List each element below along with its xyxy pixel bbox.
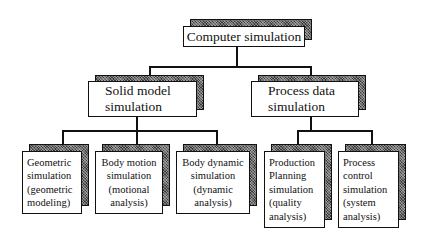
node-label-line: simulation [96, 169, 162, 183]
connector-to-process-control [371, 130, 373, 144]
connector-process-bar [297, 130, 372, 132]
node-label-line: analysis) [96, 196, 162, 210]
node-label-line: Solid model [105, 83, 196, 99]
node-label-line: simulation [268, 99, 358, 115]
node-label-line: (quality [269, 196, 324, 210]
connector-to-body-motion [136, 130, 138, 144]
node-label-line: simulation [177, 169, 249, 183]
connector-process-down [310, 116, 312, 131]
node-label-line: analysis) [177, 196, 249, 210]
node-box: Production Planning simulation (quality … [264, 151, 325, 228]
node-label-line: Geometric [27, 156, 81, 170]
connector-solid-bar [62, 130, 218, 132]
node-label-line: Planning [269, 169, 324, 183]
node-label-line: (system [343, 196, 398, 210]
connector-to-solid [149, 66, 151, 75]
node-label-line: (motional [96, 183, 162, 197]
node-label-line: (geometric [27, 183, 81, 197]
node-label-line: Production [269, 156, 324, 170]
node-label-line: simulation [27, 169, 81, 183]
node-label-line: modeling) [27, 196, 81, 210]
connector-to-production [297, 130, 299, 144]
connector-to-process [310, 66, 312, 75]
node-label-line: simulation [343, 183, 398, 197]
connector-solid-down [136, 116, 138, 131]
connector-root-down [236, 46, 238, 67]
node-label-line: simulation [105, 99, 196, 115]
node-label-line: Process data [268, 83, 358, 99]
connector-to-body-dynamic [216, 130, 218, 144]
node-box: Body dynamic simulation (dynamic analysi… [176, 151, 250, 214]
node-box: Body motion simulation (motional analysi… [95, 151, 163, 214]
node-label-line: (dynamic [177, 183, 249, 197]
node-label-line: analysis) [269, 210, 324, 224]
node-box: Process data simulation [251, 81, 359, 117]
node-label-line: Process [343, 156, 398, 170]
node-box: Computer simulation [183, 26, 305, 47]
node-label-line: Body motion [96, 156, 162, 170]
connector-to-geometric [62, 130, 64, 144]
node-label: Computer simulation [184, 29, 304, 45]
node-label-line: Body dynamic [177, 156, 249, 170]
connector-level2-bar [149, 66, 311, 68]
node-label-line: control [343, 169, 398, 183]
node-box: Solid model simulation [88, 81, 197, 117]
node-box: Process control simulation (system analy… [338, 151, 399, 228]
node-label-line: simulation [269, 183, 324, 197]
node-box: Geometric simulation (geometric modeling… [22, 151, 82, 214]
node-label-line: analysis) [343, 210, 398, 224]
